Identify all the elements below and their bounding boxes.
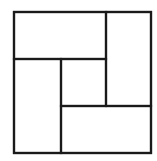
outer-border xyxy=(14,12,151,153)
region-left-tall xyxy=(14,59,61,153)
region-top-left xyxy=(14,12,106,59)
pinwheel-rectangle-diagram xyxy=(0,0,157,161)
region-bottom-right xyxy=(61,106,151,153)
region-center-square xyxy=(61,59,106,106)
region-right-tall xyxy=(106,12,151,106)
